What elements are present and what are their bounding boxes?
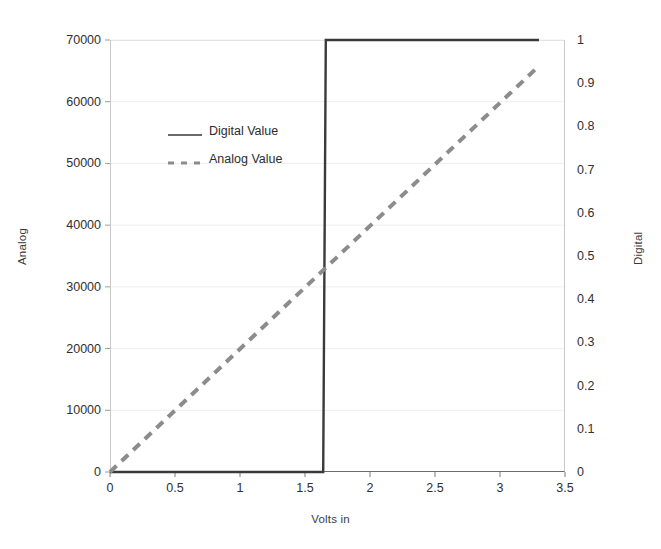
plot-series-layer — [0, 0, 661, 549]
legend-item-label: Analog Value — [209, 152, 282, 166]
chart-legend: Digital ValueAnalog Value — [168, 124, 282, 166]
chart-canvas: Analog Digital Volts in 0100002000030000… — [0, 0, 661, 549]
legend-item-label: Digital Value — [209, 124, 278, 138]
series-line-digital-value — [110, 40, 539, 472]
legend-item[interactable]: Digital Value — [168, 124, 282, 138]
legend-line-swatch — [168, 126, 202, 136]
legend-item[interactable]: Analog Value — [168, 152, 282, 166]
legend-line-swatch — [168, 154, 202, 164]
